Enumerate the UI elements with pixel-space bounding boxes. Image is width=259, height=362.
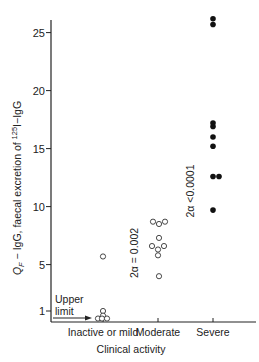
open-circle-marker xyxy=(150,219,155,224)
significance-label-moderate-severe: 2α <0.0001 xyxy=(184,164,196,217)
scatter-chart: 1510152025 Inactive or mildModerateSever… xyxy=(0,0,259,362)
y-tick-label: 10 xyxy=(33,201,45,213)
y-tick-label: 25 xyxy=(33,27,45,39)
filled-circle-marker xyxy=(210,207,216,213)
filled-circle-marker xyxy=(210,174,216,180)
open-circle-marker xyxy=(100,254,105,259)
filled-circle-marker xyxy=(216,174,222,180)
open-circle-marker xyxy=(156,235,161,240)
open-circle-marker xyxy=(155,247,160,252)
filled-circle-marker xyxy=(210,124,216,130)
significance-label-mild-moderate: 2α = 0.002 xyxy=(128,228,140,278)
open-circle-marker xyxy=(156,274,161,279)
y-tick-label: 5 xyxy=(39,259,45,271)
data-points xyxy=(95,16,221,321)
y-tick-label: 20 xyxy=(33,85,45,97)
filled-circle-marker xyxy=(210,143,216,149)
x-axis-title: Clinical activity xyxy=(97,343,167,355)
x-category-label: Moderate xyxy=(136,326,181,338)
open-circle-marker xyxy=(155,253,160,258)
upper-limit-label-line1: Upper xyxy=(55,293,84,305)
filled-circle-marker xyxy=(210,16,216,22)
y-tick-label: 15 xyxy=(33,143,45,155)
y-ticks: 1510152025 xyxy=(33,27,51,317)
arrowhead-icon xyxy=(85,316,92,321)
open-circle-marker xyxy=(161,243,166,248)
y-axis-title: QF − IgG, faecal excretion of 125I−IgG xyxy=(10,101,26,275)
filled-circle-marker xyxy=(210,22,216,28)
filled-circle-marker xyxy=(210,134,216,140)
x-category-label: Severe xyxy=(196,326,229,338)
open-circle-marker xyxy=(149,243,154,248)
open-circle-marker xyxy=(156,221,161,226)
y-tick-label: 1 xyxy=(39,305,45,317)
open-circle-marker xyxy=(162,219,167,224)
upper-limit-label-line2: limit xyxy=(55,305,74,317)
x-category-label: Inactive or mild xyxy=(68,326,139,338)
open-circle-marker xyxy=(99,316,104,321)
x-ticks: Inactive or mildModerateSevere xyxy=(68,318,230,338)
open-circle-marker xyxy=(104,316,109,321)
